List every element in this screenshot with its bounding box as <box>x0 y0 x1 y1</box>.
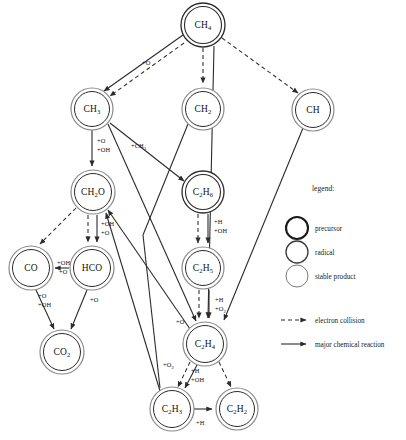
edge-label-c2h3-c2h2-h: +H <box>196 419 205 426</box>
edge-label-c2h4-ch2o-o: +O <box>176 318 185 325</box>
edge-ch4-ch-collision <box>222 38 298 93</box>
edge-ch2o-co-collision <box>40 208 76 244</box>
node-ch2o-label: CH2O <box>81 187 105 197</box>
reaction-diagram: CH4 CH3 CH2 CH CH2O C2H6 <box>0 0 406 440</box>
legend-precursor-circle <box>286 217 308 239</box>
node-c2h2[interactable]: C2H2 <box>216 388 258 430</box>
node-ch-label: CH <box>306 105 320 115</box>
edge-label-ch2o-hco-o: +O <box>101 229 110 236</box>
legend-stable-product-label: stable product <box>315 273 356 281</box>
edge-label-co-co2-oh: +OH <box>38 301 51 308</box>
legend-item-precursor: precursor <box>286 217 343 239</box>
edge-label-hco-co2-o: +O <box>90 296 99 303</box>
edge-label-c2h4-c2h3-h: +H <box>191 367 200 374</box>
legend-electron-collision-label: electron collision <box>315 317 365 325</box>
node-hco[interactable]: HCO <box>70 246 114 290</box>
node-ch2o[interactable]: CH2O <box>71 170 115 214</box>
legend-item-electron-collision: electron collision <box>281 317 365 325</box>
edge-label-ch2o-hco-oh: +OH <box>101 220 114 227</box>
edge-c2h3-ch2o-reaction <box>106 213 160 391</box>
edge-label-c2h4-c2h3-oh: +OH <box>191 376 204 383</box>
node-ch4[interactable]: CH4 <box>181 3 225 47</box>
edge-ch3-c2h4-reaction <box>108 124 196 321</box>
legend-major-reaction-label: major chemical reaction <box>315 341 385 349</box>
edge-label-c2h5-c2h4-o2: +O2 <box>215 305 226 314</box>
edge-label-c2h6-c2h5-oh: +OH <box>214 227 227 234</box>
edge-label-ch3-c2h6: +CH3 <box>131 142 147 151</box>
legend-title: legend: <box>312 184 334 193</box>
legend-stable-product-circle <box>286 265 308 287</box>
node-hco-label: HCO <box>82 263 103 273</box>
legend-radical-label: radical <box>315 249 335 257</box>
legend-radical-circle <box>286 241 308 263</box>
node-co2[interactable]: CO2 <box>40 330 84 374</box>
edge-ch2-c2h4-reaction-cont <box>143 235 160 388</box>
edge-c2h4-ch2o-reaction <box>108 210 190 329</box>
edge-label-ch3-ch2o-o: +O <box>97 137 106 144</box>
edge-label-hco-co-oh: +OH <box>57 259 70 266</box>
edge-label-ch4-ch3: +O <box>142 59 151 66</box>
edge-label-c2h5-c2h4-h: +H <box>215 296 224 303</box>
edge-label-co-co2-o: +O <box>38 292 47 299</box>
node-c2h6[interactable]: C2H6 <box>182 171 224 213</box>
node-c2h5[interactable]: C2H5 <box>182 247 224 289</box>
node-co[interactable]: CO <box>9 246 53 290</box>
edge-c2h4-c2h2-collision <box>219 362 231 387</box>
edge-label-c2h3-ch2o-o2: +O2 <box>163 361 174 370</box>
node-c2h3[interactable]: C2H3 <box>150 387 194 431</box>
edge-label-c2h6-c2h5-h: +H <box>214 218 223 225</box>
legend-precursor-label: precursor <box>315 225 343 233</box>
node-c2h4[interactable]: C2H4 <box>183 322 227 366</box>
legend-item-radical: radical <box>286 241 335 263</box>
edge-hco-co2-reaction <box>71 290 87 329</box>
legend: legend: precursor radical stable product… <box>281 184 385 349</box>
node-ch[interactable]: CH <box>292 89 334 131</box>
edge-label-ch3-ch2o-oh: +OH <box>97 146 110 153</box>
edge-ch4-ch3-collision <box>110 43 184 96</box>
reaction-network-svg: CH4 CH3 CH2 CH CH2O C2H6 <box>0 0 406 440</box>
legend-item-stable-product: stable product <box>286 265 356 287</box>
node-ch2[interactable]: CH2 <box>182 88 224 130</box>
legend-item-major-chemical-reaction: major chemical reaction <box>281 341 385 349</box>
node-ch3[interactable]: CH3 <box>71 88 113 130</box>
node-co-label: CO <box>24 263 38 273</box>
edge-label-hco-co-o: +O <box>59 268 68 275</box>
edge-c2h4-c2h3-collision <box>178 362 190 387</box>
